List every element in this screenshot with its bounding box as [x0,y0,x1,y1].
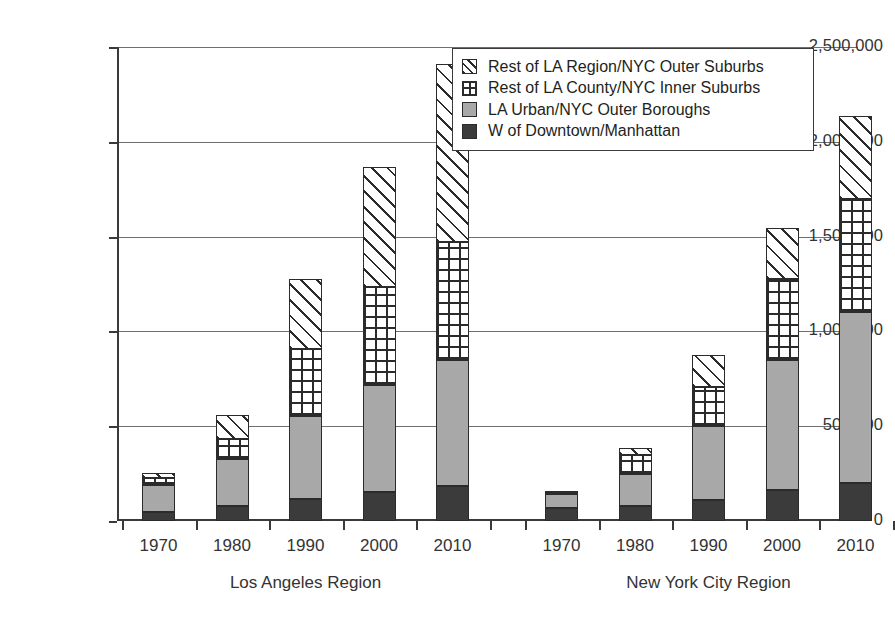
bar-segment [363,167,396,286]
legend-item-label: Rest of LA County/NYC Inner Suburbs [488,79,760,97]
x-tick-mark [599,521,601,530]
y-tick-mark [109,237,117,239]
bar-segment [839,199,872,312]
bar-segment [766,490,799,521]
bar-segment [766,279,799,360]
bar-segment [545,491,578,495]
bar-segment [216,415,249,440]
bar-segment [216,459,249,505]
x-axis-tick-label: 1970 [527,536,597,556]
bar-segment [692,426,725,500]
solid-gray-swatch-icon [462,102,477,117]
y-tick-mark [109,142,117,144]
bar-segment [289,279,322,349]
bar-segment [619,474,652,506]
bar-segment [766,228,799,279]
bar-segment [363,492,396,521]
x-axis-tick-label: 1990 [271,536,341,556]
x-tick-mark [196,521,198,530]
y-tick-mark [109,47,117,49]
solid-dark-swatch-icon [462,124,477,139]
bar-segment [216,439,249,459]
x-tick-mark [343,521,345,530]
bar-segment [692,355,725,387]
bar-segment [545,494,578,507]
x-tick-mark [122,521,124,530]
x-tick-mark [416,521,418,530]
x-axis-tick-label: 1980 [197,536,267,556]
legend-item-label: Rest of LA Region/NYC Outer Suburbs [488,58,764,76]
y-tick-mark [109,521,117,523]
x-tick-mark [269,521,271,530]
x-axis-tick-label: 1990 [674,536,744,556]
bar-segment [289,349,322,415]
stacked-bar [766,228,799,521]
bar-segment [839,483,872,521]
bar-segment [692,387,725,426]
stacked-bar [289,279,322,521]
x-axis-tick-label: 1970 [124,536,194,556]
x-tick-mark [672,521,674,530]
bar-segment [142,473,175,479]
x-tick-mark [819,521,821,530]
stacked-bar [142,473,175,521]
x-tick-mark [746,521,748,530]
y-tick-mark [109,426,117,428]
bar-segment [766,360,799,490]
x-axis-tick-label: 2010 [821,536,891,556]
stacked-bar [619,448,652,521]
x-tick-mark [893,521,895,530]
bar-segment [436,242,469,360]
bar-segment [839,312,872,484]
stacked-bar [216,415,249,521]
x-axis-tick-label: 2000 [747,536,817,556]
bar-segment [436,486,469,521]
bar-segment [436,360,469,486]
legend-item: Rest of LA County/NYC Inner Suburbs [462,78,804,100]
legend-item-label: W of Downtown/Manhattan [488,122,680,140]
bar-segment [142,512,175,521]
legend-item-label: LA Urban/NYC Outer Boroughs [488,101,710,119]
chart-legend: Rest of LA Region/NYC Outer Suburbs Rest… [452,48,814,151]
stacked-bar [839,116,872,521]
bar-segment [289,499,322,521]
bar-segment [216,506,249,521]
bar-segment [619,506,652,521]
bar-segment [619,455,652,474]
grid-hatch-swatch-icon [462,81,477,96]
stacked-bar [363,167,396,521]
bar-segment [692,500,725,521]
x-axis-tick-label: 1980 [600,536,670,556]
x-tick-mark [490,521,492,530]
legend-item: LA Urban/NYC Outer Boroughs [462,99,804,121]
stacked-bar [545,491,578,521]
bar-segment [142,478,175,485]
bar-segment [545,508,578,521]
x-axis-tick-label: 2010 [418,536,488,556]
bar-segment [142,485,175,512]
bar-segment [363,385,396,491]
bar-segment [363,287,396,386]
x-axis-tick-label: 2000 [344,536,414,556]
stacked-bar [692,355,725,521]
x-tick-mark [525,521,527,530]
bar-segment [839,116,872,198]
x-axis-group-label: Los Angeles Region [156,573,456,593]
diagonal-hatch-swatch-icon [462,59,477,74]
legend-item: W of Downtown/Manhattan [462,121,804,143]
legend-item: Rest of LA Region/NYC Outer Suburbs [462,56,804,78]
bar-segment [619,448,652,455]
y-tick-mark [109,331,117,333]
bar-segment [289,416,322,499]
x-axis-group-label: New York City Region [559,573,859,593]
